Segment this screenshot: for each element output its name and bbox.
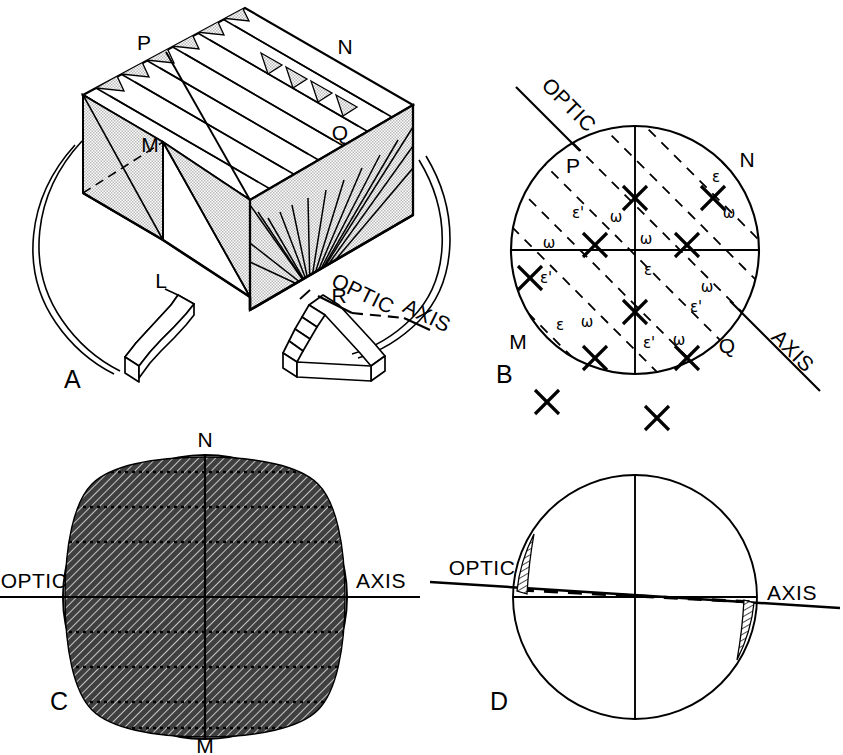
greek-om-3: ω — [543, 234, 556, 252]
panel-d: OPTIC AXIS D — [420, 410, 843, 755]
greek-om-1: ω — [723, 204, 736, 222]
label-point-m: M — [141, 133, 159, 156]
panel-b: ε ω ε' ω ω ε' ω ε ω ε' ε ω ε' ω OPTIC AX… — [430, 0, 843, 410]
greek-eps-2: ε' — [572, 204, 584, 222]
label-axis-d: AXIS — [767, 581, 817, 604]
label-optic-c: OPTIC — [1, 569, 68, 592]
label-optic-b: OPTIC — [538, 73, 601, 136]
greek-eps-4: ε — [644, 261, 652, 279]
greek-eps-5: ε' — [690, 298, 702, 316]
figure-root: P N M Q L R OPTIC AXIS A — [0, 0, 843, 755]
panel-letter-a: A — [64, 365, 81, 393]
r-tick — [300, 290, 310, 299]
label-axis-b: AXIS — [768, 325, 820, 377]
label-point-p-b: P — [566, 154, 580, 177]
panel-a: P N M Q L R OPTIC AXIS A — [0, 0, 430, 410]
label-point-q: Q — [332, 121, 348, 144]
label-point-n: N — [337, 35, 352, 58]
greek-eps-7: ε' — [643, 334, 655, 352]
panel-letter-d: D — [490, 687, 508, 715]
panel-c: OPTIC AXIS N M C — [0, 410, 420, 755]
panel-letter-b: B — [496, 360, 513, 388]
greek-om-2: ω — [610, 208, 623, 226]
stepped-wedge-left — [125, 289, 194, 382]
label-point-m-c: M — [196, 734, 214, 755]
label-point-q-b: Q — [719, 334, 735, 357]
label-optic-d: OPTIC — [449, 556, 516, 579]
greek-om-4: ω — [640, 230, 653, 248]
greek-om-7: ω — [673, 331, 686, 349]
label-point-m-b: M — [509, 330, 527, 353]
greek-om-5: ω — [701, 278, 714, 296]
label-point-n-c: N — [197, 428, 212, 451]
panel-letter-c: C — [50, 687, 68, 715]
optic-axis-dash-a — [352, 313, 404, 318]
greek-om-6: ω — [581, 313, 594, 331]
label-axis-c: AXIS — [356, 569, 406, 592]
greek-eps-1: ε — [712, 168, 720, 186]
label-point-n-b: N — [739, 148, 754, 171]
greek-eps-3: ε' — [540, 269, 552, 287]
label-point-p: P — [137, 31, 151, 54]
greek-eps-6: ε — [556, 316, 564, 334]
label-point-l: L — [155, 269, 167, 292]
